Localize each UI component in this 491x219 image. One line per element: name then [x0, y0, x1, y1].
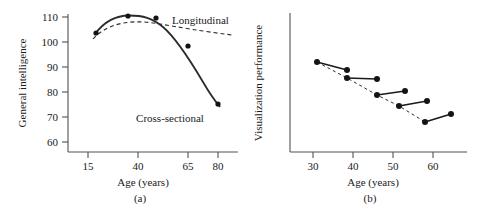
- data-point: [153, 15, 158, 20]
- cross-sectional-label: Cross-sectional: [136, 112, 204, 124]
- y-tick-label: 60: [47, 136, 59, 148]
- data-point: [396, 103, 402, 109]
- cohort-segments-b: [317, 62, 451, 122]
- figure-container: 110 100 90 80 70 60 15 40 65 80 Age (yea…: [0, 0, 491, 219]
- x-tick-label: 30: [308, 160, 320, 172]
- data-point: [424, 98, 430, 104]
- data-point: [185, 43, 190, 48]
- cross-sectional-curve: [95, 16, 220, 108]
- y-tick-labels-a: 110 100 90 80 70 60: [42, 11, 59, 148]
- caption-a: (a): [110, 192, 170, 204]
- chart-a-axes: [62, 14, 238, 158]
- y-axis-title-b: Visualization performance: [252, 25, 264, 141]
- x-tick-label: 60: [428, 160, 440, 172]
- data-point: [344, 75, 350, 81]
- cross-sectional-trend-b: [317, 62, 425, 122]
- x-tick-labels-b: 30 40 50 60: [308, 160, 440, 172]
- cohort-segment: [377, 91, 405, 95]
- chart-b-axes: [290, 13, 467, 158]
- data-point: [215, 101, 220, 106]
- chart-b-svg: 30 40 50 60 Age (years) Visualization pe…: [245, 0, 491, 190]
- data-point: [125, 13, 130, 18]
- y-ticks-a: [62, 17, 68, 142]
- data-point: [314, 59, 320, 65]
- data-point: [93, 30, 98, 35]
- data-point: [374, 76, 380, 82]
- x-ticks-a: [88, 152, 218, 158]
- data-point: [448, 111, 454, 117]
- y-tick-label: 90: [47, 61, 59, 73]
- data-point: [402, 88, 408, 94]
- data-point: [422, 119, 428, 125]
- x-tick-label: 40: [348, 160, 360, 172]
- y-tick-label: 100: [42, 36, 59, 48]
- y-tick-label: 70: [47, 111, 59, 123]
- x-tick-label: 50: [388, 160, 400, 172]
- x-ticks-b: [313, 152, 433, 158]
- series-cross-sectional-a: [93, 13, 220, 107]
- x-tick-label: 65: [183, 160, 195, 172]
- x-tick-label: 80: [213, 160, 225, 172]
- y-tick-label: 110: [42, 11, 59, 23]
- caption-b: (b): [340, 192, 400, 204]
- data-point: [344, 67, 350, 73]
- cohort-segment: [347, 78, 377, 79]
- x-tick-label: 15: [83, 160, 95, 172]
- x-axis-title-b: Age (years): [347, 176, 399, 189]
- y-axis-title-a: General intelligence: [16, 38, 28, 127]
- cohort-segment: [399, 101, 427, 106]
- x-tick-label: 40: [133, 160, 145, 172]
- data-points-a: [93, 13, 220, 106]
- x-axis-title-a: Age (years): [117, 176, 169, 189]
- cohort-segment: [317, 62, 347, 70]
- y-tick-label: 80: [47, 86, 59, 98]
- panel-a: 110 100 90 80 70 60 15 40 65 80 Age (yea…: [0, 0, 245, 219]
- data-points-b: [314, 59, 454, 125]
- data-point: [374, 92, 380, 98]
- panel-b: 30 40 50 60 Age (years) Visualization pe…: [245, 0, 491, 219]
- longitudinal-label: Longitudinal: [172, 14, 229, 26]
- trend-dashed-line: [317, 62, 425, 122]
- cohort-segment: [425, 114, 451, 122]
- x-tick-labels-a: 15 40 65 80: [83, 160, 225, 172]
- chart-a-svg: 110 100 90 80 70 60 15 40 65 80 Age (yea…: [0, 0, 245, 190]
